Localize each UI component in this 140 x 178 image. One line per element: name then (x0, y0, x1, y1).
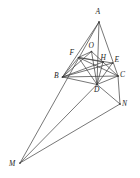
vertex-A (98, 21, 100, 23)
point-label-O: O (89, 42, 94, 50)
vertex-O (91, 51, 93, 53)
segment-BC (63, 76, 119, 77)
vertex-N (119, 103, 121, 105)
segment-OD (92, 52, 98, 85)
segment-DN (97, 85, 120, 105)
point-label-B: B (54, 72, 59, 80)
point-label-C: C (120, 71, 125, 79)
vertex-M (19, 162, 21, 164)
point-label-E: E (115, 56, 120, 64)
vertices-group (19, 21, 121, 164)
point-label-H: H (101, 54, 106, 62)
segment-AD (97, 22, 99, 85)
segment-AC (99, 22, 118, 76)
vertex-B (62, 76, 64, 78)
geometry-figure: ABCDEFHOMN (0, 0, 140, 178)
point-label-M: M (9, 160, 15, 168)
point-label-N: N (122, 100, 127, 108)
geometry-canvas (0, 0, 140, 178)
point-label-F: F (70, 49, 75, 57)
segment-CN (118, 76, 120, 104)
point-label-A: A (96, 8, 101, 16)
segment-MA (20, 22, 99, 163)
segment-AB (63, 22, 100, 77)
segment-MD (20, 85, 97, 164)
point-label-D: D (94, 86, 99, 94)
segment-MN (20, 104, 120, 163)
vertex-C (117, 75, 119, 77)
segments-group (20, 22, 120, 163)
vertex-E (112, 62, 114, 64)
vertex-F (78, 57, 80, 59)
